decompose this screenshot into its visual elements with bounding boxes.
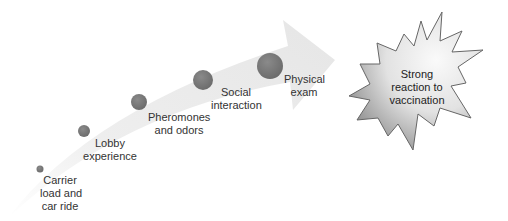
outcome-label: Strong reaction to vaccination (379, 68, 455, 107)
step-label-lobby: Lobby experience (82, 137, 138, 163)
step-label-physical: Physical exam (284, 73, 324, 99)
label-line: Carrier (40, 174, 80, 187)
step-label-social: Social interaction (211, 86, 261, 112)
label-line: reaction to (379, 81, 455, 94)
label-line: car ride (40, 200, 80, 213)
label-line: exam (284, 86, 324, 99)
label-line: Social (211, 86, 261, 99)
step-marker-5 (257, 53, 283, 79)
label-line: Lobby (82, 137, 138, 150)
step-marker-3 (131, 94, 147, 110)
step-marker-2 (78, 125, 90, 137)
label-line: interaction (211, 99, 261, 112)
label-line: Strong (379, 68, 455, 81)
step-label-pheromones: Pheromones and odors (148, 111, 210, 137)
step-marker-4 (193, 70, 213, 90)
label-line: experience (82, 150, 138, 163)
step-marker-1 (37, 166, 44, 173)
label-line: and odors (148, 124, 210, 137)
label-line: Physical (284, 73, 324, 86)
label-line: load and (40, 187, 80, 200)
step-label-carrier: Carrier load and car ride (40, 174, 80, 213)
label-line: Pheromones (148, 111, 210, 124)
label-line: vaccination (379, 94, 455, 107)
